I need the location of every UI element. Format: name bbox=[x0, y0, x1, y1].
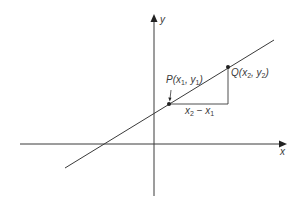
point-q bbox=[226, 65, 230, 69]
y-axis-arrow-icon bbox=[151, 14, 158, 22]
x-axis-label: x bbox=[280, 147, 285, 157]
point-q-label: Q(x2, y2) bbox=[231, 68, 269, 79]
run-label: x2 − x1 bbox=[185, 106, 214, 117]
point-p-label: P(x1, y1) bbox=[166, 75, 203, 86]
line-through-two-points-diagram: y x P(x1, y1) Q(x2, y2) x2 − x1 bbox=[0, 0, 304, 199]
diagram-canvas bbox=[0, 0, 304, 199]
point-p bbox=[167, 102, 171, 106]
p-pointer-arrow-icon bbox=[168, 98, 171, 102]
y-axis-label: y bbox=[160, 15, 165, 25]
